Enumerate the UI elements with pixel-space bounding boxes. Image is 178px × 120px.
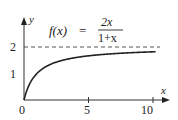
formula-lhs: f(x): [49, 23, 67, 38]
formula-equals: =: [79, 23, 86, 38]
y-tick-label-1: 1: [10, 67, 16, 81]
y-axis-arrow-icon: [21, 17, 27, 25]
x-tick-label-10: 10: [141, 103, 153, 117]
x-tick-label-0: 0: [19, 103, 25, 117]
formula-numerator: 2x: [101, 15, 113, 29]
y-axis-label: y: [28, 13, 34, 25]
x-axis-label: x: [160, 84, 166, 96]
function-plot: y x 2 1 0 5 10 f(x) = 2x 1+x: [0, 0, 178, 120]
function-curve: [24, 52, 156, 100]
x-axis-arrow-icon: [162, 97, 170, 103]
formula-denominator: 1+x: [98, 31, 117, 45]
y-tick-label-2: 2: [10, 40, 16, 54]
x-tick-label-5: 5: [84, 103, 90, 117]
